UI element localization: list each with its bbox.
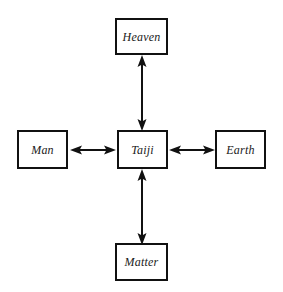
node-heaven-label: Heaven	[123, 31, 161, 43]
node-earth-label: Earth	[226, 144, 254, 156]
node-matter-label: Matter	[125, 256, 159, 268]
node-taiji-label: Taiji	[131, 144, 154, 156]
node-heaven[interactable]: Heaven	[115, 18, 168, 55]
node-matter[interactable]: Matter	[115, 243, 168, 281]
node-earth[interactable]: Earth	[215, 130, 266, 169]
connector-taiji-heaven-double-arrow-icon	[130, 54, 154, 132]
diagram-canvas: Heaven Taiji Man Earth Matter	[0, 0, 283, 292]
node-man[interactable]: Man	[17, 130, 68, 169]
connector-man-taiji-double-arrow-icon	[68, 139, 118, 161]
connector-taiji-matter-double-arrow-icon	[130, 168, 154, 246]
connector-taiji-earth-double-arrow-icon	[167, 139, 217, 161]
node-taiji[interactable]: Taiji	[117, 130, 168, 169]
node-man-label: Man	[31, 144, 54, 156]
